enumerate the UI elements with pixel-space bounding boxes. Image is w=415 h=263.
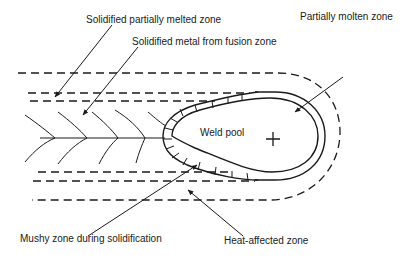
weld-pool-boundary: [172, 98, 318, 172]
leader-partially-molten: [295, 77, 343, 112]
heat-source-cross: [266, 132, 280, 146]
leader-solidified-metal: [83, 47, 138, 115]
label-weld-pool: Weld pool: [200, 127, 244, 139]
partially-molten-boundary: [255, 92, 325, 180]
dendrites: [25, 110, 166, 164]
label-mushy-zone: Mushy zone during solidification: [20, 233, 162, 245]
leader-solidified-pmz: [55, 25, 112, 97]
label-solidified-pmz: Solidified partially melted zone: [86, 14, 221, 26]
label-partially-molten: Partially molten zone: [300, 11, 393, 23]
label-haz: Heat-affected zone: [224, 235, 308, 247]
label-solidified-metal: Solidified metal from fusion zone: [132, 36, 277, 48]
leader-haz: [188, 190, 243, 236]
